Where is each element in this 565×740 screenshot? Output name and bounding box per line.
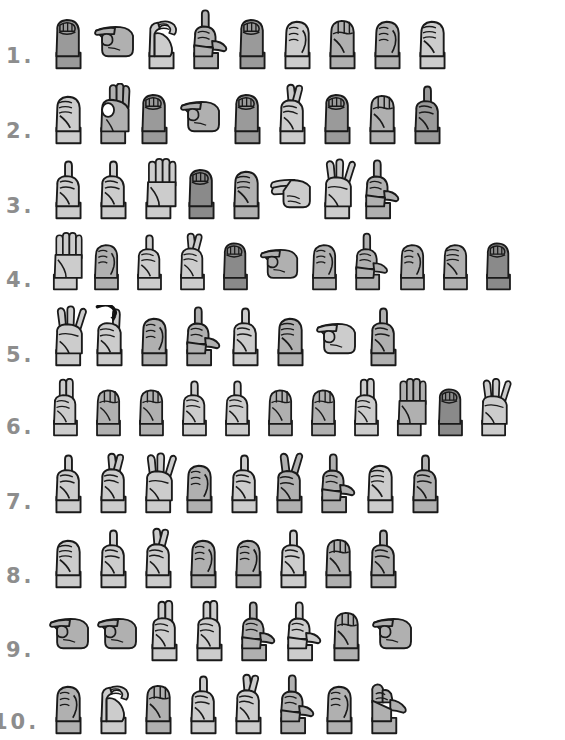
asl-letter-d-icon [405, 83, 450, 145]
asl-letter-u-icon [187, 600, 232, 662]
asl-letter-r-icon [136, 527, 181, 589]
row-number: 6. [6, 417, 35, 438]
asl-letter-d-icon [91, 527, 136, 589]
asl-letter-a-icon [177, 452, 222, 514]
asl-letter-s-icon [46, 527, 91, 589]
asl-letter-d-icon [403, 452, 448, 514]
asl-letter-w-icon [136, 452, 177, 514]
asl-letter-l-icon [271, 673, 317, 735]
asl-letter-m-icon [302, 378, 345, 437]
asl-letter-a-icon [303, 232, 346, 291]
asl-letter-s-icon [434, 232, 477, 291]
row-number: 8. [6, 566, 35, 587]
row-number: 1. [6, 46, 35, 67]
asl-letter-d-icon [91, 158, 136, 220]
asl-letter-a-icon [46, 673, 91, 735]
asl-letter-b-icon [44, 232, 85, 291]
asl-letter-m-icon [316, 527, 361, 589]
asl-letter-u-icon [44, 378, 87, 437]
asl-letter-r-icon [270, 83, 315, 145]
asl-letter-x-icon [46, 600, 94, 662]
row-number: 9. [6, 640, 35, 661]
asl-letter-s-icon [224, 158, 269, 220]
asl-letter-l-icon [184, 8, 230, 70]
asl-letter-x-icon [94, 600, 142, 662]
asl-letter-w-icon [472, 378, 512, 437]
asl-letter-e-icon [315, 83, 360, 145]
sign-sequence [46, 305, 406, 367]
asl-letter-r-icon [91, 452, 136, 514]
asl-letter-a-icon [85, 232, 128, 291]
asl-letter-w-icon [46, 305, 87, 367]
asl-letter-e-icon [429, 378, 472, 437]
asl-letter-e-icon [214, 232, 257, 291]
asl-letter-l-icon [177, 305, 223, 367]
asl-letter-v-icon [267, 452, 312, 514]
row-number: 2. [6, 121, 35, 142]
asl-letter-r-icon [171, 232, 214, 291]
asl-letter-l-icon [346, 232, 391, 291]
asl-letter-a-icon [391, 232, 434, 291]
asl-letter-m-icon [320, 8, 365, 70]
asl-letter-b-icon [136, 158, 179, 220]
asl-letter-d-icon [223, 305, 268, 367]
asl-letter-d-icon [271, 527, 316, 589]
asl-letter-e-icon [230, 8, 275, 70]
row-number: 3. [6, 196, 35, 217]
asl-letter-d-icon [173, 378, 216, 437]
asl-letter-l-icon [312, 452, 358, 514]
asl-letter-r-icon [226, 673, 271, 735]
asl-letter-u-icon [142, 600, 187, 662]
asl-letter-m-icon [259, 378, 302, 437]
row-number: 4. [6, 270, 35, 291]
asl-letter-d-icon [216, 378, 259, 437]
asl-letter-d-icon [222, 452, 267, 514]
asl-letter-a-icon [181, 527, 226, 589]
asl-letter-m-icon [130, 378, 173, 437]
asl-letter-d-icon [181, 673, 226, 735]
row-number: 7. [6, 492, 35, 513]
sign-sequence [46, 158, 402, 220]
asl-letter-l-icon [278, 600, 324, 662]
asl-letter-x-icon [91, 8, 139, 70]
asl-letter-e-icon [179, 158, 224, 220]
asl-letter-c-icon [91, 673, 136, 735]
asl-letter-u-icon [345, 378, 388, 437]
row-number: 5. [6, 345, 35, 366]
asl-letter-m-icon [136, 673, 181, 735]
asl-letter-x-icon [177, 83, 225, 145]
asl-letter-a-icon [226, 527, 271, 589]
sign-sequence [44, 378, 512, 437]
sign-sequence [46, 527, 406, 589]
asl-letter-m-icon [360, 83, 405, 145]
asl-letter-b-icon [388, 378, 429, 437]
sign-sequence [44, 232, 520, 291]
asl-letter-a-icon [132, 305, 177, 367]
asl-letter-l-icon [232, 600, 278, 662]
asl-letter-a-icon [317, 673, 362, 735]
sign-sequence [46, 452, 448, 514]
asl-letter-a-icon [275, 8, 320, 70]
asl-letter-x-icon [257, 232, 303, 291]
sign-sequence [46, 8, 455, 70]
asl-letter-x-icon [313, 305, 361, 367]
asl-letter-c-icon [139, 8, 184, 70]
asl-letter-d-icon [361, 305, 406, 367]
worksheet-sheet: 1.2.3.4.5.6.7.8.9.10. [0, 0, 565, 740]
row-number: 10. [0, 712, 39, 733]
asl-letter-s-icon [410, 8, 455, 70]
asl-letter-w-icon [315, 158, 356, 220]
asl-letter-s-icon [46, 83, 91, 145]
asl-letter-d-icon [46, 158, 91, 220]
asl-letter-e-icon [225, 83, 270, 145]
asl-letter-y-icon [362, 673, 410, 735]
sign-sequence [46, 600, 417, 662]
asl-letter-a-icon [365, 8, 410, 70]
asl-letter-j-icon [87, 305, 132, 367]
sign-sequence [46, 83, 450, 145]
asl-letter-x-icon [369, 600, 417, 662]
asl-letter-d-icon [361, 527, 406, 589]
asl-letter-d-icon [128, 232, 171, 291]
asl-letter-m-icon [324, 600, 369, 662]
asl-letter-d-icon [46, 452, 91, 514]
